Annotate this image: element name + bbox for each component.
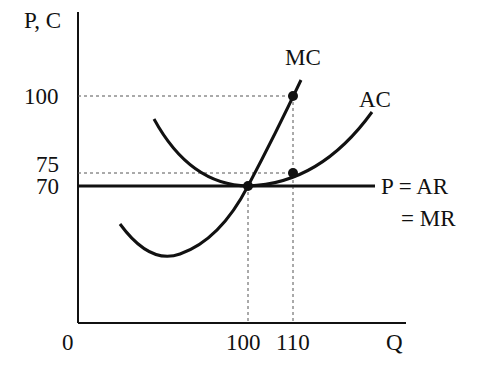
- point-ac-110: [288, 168, 298, 178]
- y-tick-70: 70: [36, 174, 59, 199]
- x-axis-label: Q: [386, 330, 403, 355]
- x-tick-110: 110: [276, 330, 310, 355]
- origin-label: 0: [62, 330, 74, 355]
- price-line-label-1: P = AR: [381, 174, 449, 199]
- point-equilibrium: [243, 181, 253, 191]
- cost-curves-chart: P, C 100 75 70 0 100 110 Q MC AC P = AR …: [0, 0, 492, 370]
- guide-lines: [78, 96, 293, 323]
- y-axis-label: P, C: [24, 8, 61, 33]
- ac-label: AC: [359, 87, 391, 112]
- y-tick-100: 100: [24, 84, 59, 109]
- mc-label: MC: [285, 45, 321, 70]
- price-line-label-2: = MR: [401, 206, 456, 231]
- mc-curve: [120, 80, 301, 256]
- x-tick-100: 100: [226, 330, 261, 355]
- ac-curve: [154, 112, 372, 186]
- point-mc-110: [288, 91, 298, 101]
